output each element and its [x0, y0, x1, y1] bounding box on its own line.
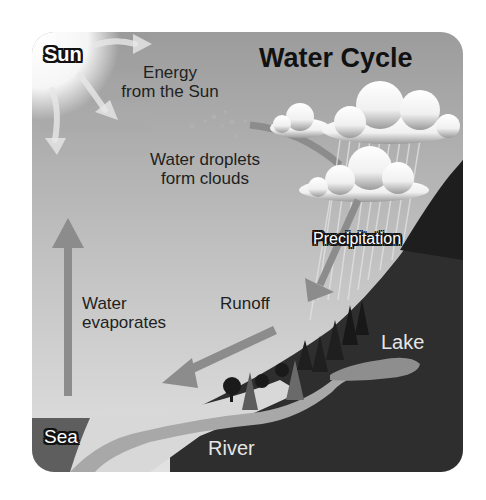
energy-label: Energy from the Sun [110, 63, 230, 101]
sea-label: Sea [44, 426, 78, 447]
sun-label: Sun [44, 43, 82, 65]
water-cycle-diagram [0, 0, 486, 500]
runoff-label: Runoff [220, 294, 270, 313]
energy-line2: from the Sun [110, 82, 230, 101]
precipitation-label: Precipitation [313, 230, 401, 248]
droplets-label: Water droplets form clouds [135, 150, 275, 188]
title: Water Cycle [259, 43, 413, 73]
evaporates-line2: evaporates [82, 313, 166, 332]
evaporates-label: Water evaporates [82, 294, 166, 332]
evaporates-line1: Water [82, 294, 166, 313]
energy-line1: Energy [110, 63, 230, 82]
droplets-line2: form clouds [135, 169, 275, 188]
river-label: River [208, 437, 255, 459]
lake-label: Lake [381, 331, 424, 353]
evaporation-arrow-shaft [64, 238, 72, 396]
droplets-line1: Water droplets [135, 150, 275, 169]
